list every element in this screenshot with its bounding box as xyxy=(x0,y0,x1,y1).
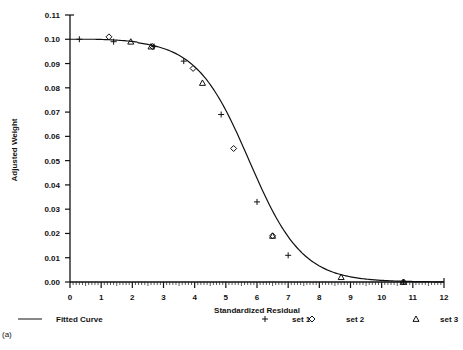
x-tick-label: 4 xyxy=(192,293,197,302)
data-points xyxy=(76,34,406,285)
legend-item: set 2 xyxy=(309,315,365,324)
x-tick-label: 6 xyxy=(255,293,260,302)
x-tick-label: 11 xyxy=(409,293,418,302)
y-tick-label: 0.07 xyxy=(44,108,60,117)
x-tick-label: 0 xyxy=(68,293,73,302)
legend: Fitted Curveset 1set 2set 3 xyxy=(18,315,459,324)
y-tick-label: 0.01 xyxy=(44,254,60,263)
x-tick-label: 9 xyxy=(348,293,353,302)
x-tick-label: 1 xyxy=(99,293,104,302)
legend-item: set 3 xyxy=(413,315,459,324)
y-axis: 0.000.010.020.030.040.050.060.070.080.09… xyxy=(44,11,74,287)
x-tick-label: 8 xyxy=(317,293,322,302)
series-set-2 xyxy=(106,34,407,285)
y-tick-label: 0.02 xyxy=(44,229,60,238)
x-tick-label: 2 xyxy=(130,293,135,302)
x-tick-label: 10 xyxy=(377,293,386,302)
fitted-curve xyxy=(70,39,444,282)
y-tick-label: 0.06 xyxy=(44,132,60,141)
x-tick-label: 12 xyxy=(440,293,449,302)
x-axis: 0123456789101112 xyxy=(68,278,449,302)
panel-label: (a) xyxy=(2,330,12,339)
y-tick-label: 0.09 xyxy=(44,60,60,69)
chart: 0.000.010.020.030.040.050.060.070.080.09… xyxy=(0,0,463,350)
legend-label: set 2 xyxy=(346,315,365,324)
series-set-1 xyxy=(76,36,406,285)
legend-label: set 3 xyxy=(440,315,459,324)
legend-label: Fitted Curve xyxy=(56,315,103,324)
y-axis-title: Adjusted Weight xyxy=(10,118,19,181)
y-tick-label: 0.05 xyxy=(44,157,60,166)
legend-item: set 1 xyxy=(262,315,311,324)
x-axis-title: Standardized Residual xyxy=(214,306,300,315)
legend-label: set 1 xyxy=(292,315,311,324)
x-tick-label: 7 xyxy=(286,293,291,302)
x-tick-label: 3 xyxy=(161,293,166,302)
y-tick-label: 0.11 xyxy=(45,11,61,20)
y-tick-label: 0.10 xyxy=(44,35,60,44)
y-tick-label: 0.03 xyxy=(44,205,60,214)
y-tick-label: 0.08 xyxy=(44,84,60,93)
x-tick-label: 5 xyxy=(224,293,229,302)
series-set-3 xyxy=(128,39,407,285)
legend-item: Fitted Curve xyxy=(18,315,103,324)
y-tick-label: 0.00 xyxy=(44,278,60,287)
y-tick-label: 0.04 xyxy=(44,181,60,190)
